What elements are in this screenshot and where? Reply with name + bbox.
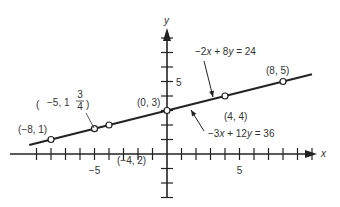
data-point: [222, 93, 228, 99]
equation-label: −3x + 12y = 36: [208, 128, 275, 139]
axis-ticks: [37, 38, 313, 198]
y-axis-arrowhead: [163, 28, 171, 41]
data-point: [48, 137, 54, 143]
point-label: (−4, 2): [117, 155, 146, 166]
data-point: [164, 108, 170, 114]
data-point: [280, 79, 286, 85]
paren-close: ): [86, 99, 89, 110]
point-label: (4, 4): [224, 111, 247, 122]
frac-num: 3: [77, 89, 83, 100]
equation-annotations: −2x + 8y = 24−3x + 12y = 36: [191, 46, 275, 139]
x-tick-label: 5: [237, 165, 243, 176]
data-point: [92, 126, 98, 132]
frac-den: 4: [77, 101, 83, 112]
point-label-fraction: (−5, 134): [36, 89, 94, 128]
point-label: (0, 3): [137, 97, 160, 108]
equation-label: −2x + 8y = 24: [195, 46, 256, 57]
coordinate-plane: x y −555 −2x + 8y = 24−3x + 12y = 36 (−8…: [0, 0, 340, 207]
data-points: (−8, 1)(−5, 134)(−4, 2)(0, 3)(4, 4)(8, 5…: [18, 65, 289, 166]
x-axis-arrowhead: [305, 150, 317, 158]
point-label: (−8, 1): [18, 124, 47, 135]
label-main: −5, 1: [47, 97, 70, 108]
leader-line: [86, 113, 94, 128]
arrowhead-icon: [191, 110, 196, 116]
y-tick-label: 5: [176, 77, 182, 88]
paren-open: (: [36, 99, 40, 110]
point-label: (8, 5): [266, 65, 289, 76]
data-point: [106, 122, 112, 128]
y-axis-label: y: [163, 15, 170, 26]
x-tick-label: −5: [89, 165, 101, 176]
x-axis-label: x: [320, 148, 327, 159]
